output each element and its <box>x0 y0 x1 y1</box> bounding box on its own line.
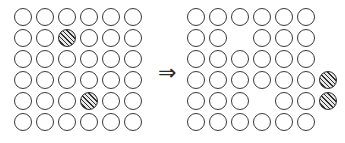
empty-circle[interactable] <box>297 71 315 89</box>
empty-circle[interactable] <box>36 8 54 26</box>
empty-slot <box>231 29 249 47</box>
empty-circle[interactable] <box>36 92 54 110</box>
empty-circle[interactable] <box>14 8 32 26</box>
empty-slot <box>319 113 337 131</box>
empty-circle[interactable] <box>209 29 227 47</box>
empty-circle[interactable] <box>209 71 227 89</box>
empty-circle[interactable] <box>275 113 293 131</box>
empty-circle[interactable] <box>124 8 142 26</box>
empty-circle[interactable] <box>102 71 120 89</box>
empty-circle[interactable] <box>14 71 32 89</box>
empty-slot <box>319 50 337 68</box>
hatched-circle[interactable] <box>319 71 337 89</box>
empty-circle[interactable] <box>58 71 76 89</box>
empty-circle[interactable] <box>58 92 76 110</box>
empty-circle[interactable] <box>209 50 227 68</box>
empty-circle[interactable] <box>102 29 120 47</box>
empty-circle[interactable] <box>253 113 271 131</box>
empty-circle[interactable] <box>253 29 271 47</box>
empty-circle[interactable] <box>187 29 205 47</box>
empty-circle[interactable] <box>231 71 249 89</box>
hatched-circle[interactable] <box>58 29 76 47</box>
empty-circle[interactable] <box>14 113 32 131</box>
hatched-circle[interactable] <box>319 92 337 110</box>
empty-slot <box>319 29 337 47</box>
empty-circle[interactable] <box>253 8 271 26</box>
empty-circle[interactable] <box>231 92 249 110</box>
empty-circle[interactable] <box>297 29 315 47</box>
empty-circle[interactable] <box>297 8 315 26</box>
empty-circle[interactable] <box>80 29 98 47</box>
empty-circle[interactable] <box>124 92 142 110</box>
hatched-circle[interactable] <box>80 92 98 110</box>
empty-circle[interactable] <box>275 29 293 47</box>
empty-circle[interactable] <box>253 71 271 89</box>
empty-circle[interactable] <box>297 92 315 110</box>
empty-circle[interactable] <box>14 92 32 110</box>
empty-circle[interactable] <box>36 71 54 89</box>
empty-circle[interactable] <box>275 71 293 89</box>
empty-circle[interactable] <box>80 113 98 131</box>
empty-circle[interactable] <box>102 8 120 26</box>
empty-circle[interactable] <box>187 8 205 26</box>
empty-circle[interactable] <box>36 113 54 131</box>
implies-double-arrow-icon: ⇒ <box>158 62 176 84</box>
empty-circle[interactable] <box>231 8 249 26</box>
empty-circle[interactable] <box>187 50 205 68</box>
empty-circle[interactable] <box>297 50 315 68</box>
empty-circle[interactable] <box>275 8 293 26</box>
empty-circle[interactable] <box>231 113 249 131</box>
empty-circle[interactable] <box>124 113 142 131</box>
empty-slot <box>253 92 271 110</box>
empty-circle[interactable] <box>187 71 205 89</box>
empty-circle[interactable] <box>275 50 293 68</box>
empty-circle[interactable] <box>58 50 76 68</box>
empty-circle[interactable] <box>14 50 32 68</box>
empty-circle[interactable] <box>124 71 142 89</box>
empty-circle[interactable] <box>58 8 76 26</box>
empty-circle[interactable] <box>253 50 271 68</box>
empty-circle[interactable] <box>80 50 98 68</box>
empty-circle[interactable] <box>36 29 54 47</box>
empty-circle[interactable] <box>209 8 227 26</box>
figure-root: ⇒ <box>0 0 345 143</box>
empty-slot <box>319 8 337 26</box>
empty-circle[interactable] <box>231 50 249 68</box>
empty-circle[interactable] <box>102 50 120 68</box>
empty-circle[interactable] <box>209 92 227 110</box>
empty-circle[interactable] <box>58 113 76 131</box>
empty-circle[interactable] <box>124 50 142 68</box>
empty-circle[interactable] <box>209 113 227 131</box>
empty-circle[interactable] <box>80 8 98 26</box>
empty-circle[interactable] <box>102 92 120 110</box>
empty-circle[interactable] <box>275 92 293 110</box>
empty-circle[interactable] <box>187 92 205 110</box>
empty-circle[interactable] <box>297 113 315 131</box>
empty-circle[interactable] <box>14 29 32 47</box>
empty-circle[interactable] <box>80 71 98 89</box>
empty-circle[interactable] <box>124 29 142 47</box>
empty-circle[interactable] <box>187 113 205 131</box>
empty-circle[interactable] <box>36 50 54 68</box>
empty-circle[interactable] <box>102 113 120 131</box>
